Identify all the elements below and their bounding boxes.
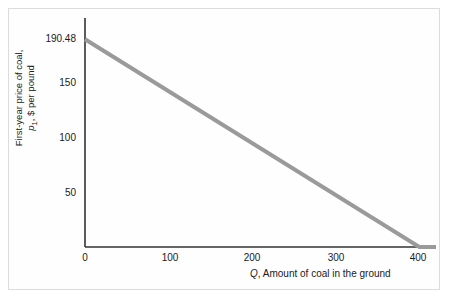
chart-figure: 190.48 150 100 50 0 100 200 300 400 Firs… — [0, 0, 450, 300]
x-tick-label-400: 400 — [398, 252, 438, 263]
y-axis-label-units: , $ per pound — [25, 65, 36, 121]
x-tick-label-300: 300 — [316, 252, 356, 263]
y-axis-label-subscript: 1 — [30, 121, 39, 125]
y-tick-label-50: 50 — [8, 187, 76, 198]
x-axis-label-symbol: Q — [250, 268, 258, 279]
x-axis-label-text: , Amount of coal in the ground — [258, 268, 391, 279]
y-axis-label-symbol: p — [25, 125, 36, 130]
y-axis-label: First-year price of coal, p1, $ per poun… — [13, 18, 41, 178]
x-tick-label-0: 0 — [65, 252, 105, 263]
x-axis-label: Q, Amount of coal in the ground — [250, 268, 391, 279]
y-axis-label-line2: p1, $ per pound — [25, 18, 41, 178]
x-tick-label-100: 100 — [150, 252, 190, 263]
x-tick-label-200: 200 — [232, 252, 272, 263]
y-axis-label-line1: First-year price of coal, — [13, 50, 24, 147]
demand-curve — [85, 39, 436, 247]
